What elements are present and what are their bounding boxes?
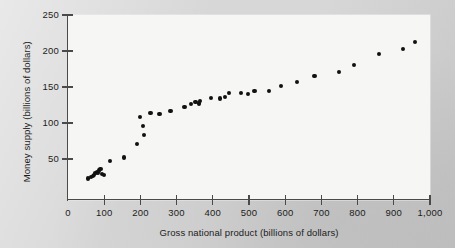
y-tick-200 xyxy=(62,50,73,51)
y-tick-label-100: 100 xyxy=(43,118,59,128)
data-point xyxy=(312,74,316,78)
x-tick-300 xyxy=(176,195,177,205)
x-tick-100 xyxy=(104,195,105,205)
data-point xyxy=(141,124,145,128)
data-point xyxy=(413,40,417,44)
data-point xyxy=(182,105,186,109)
x-tick-label-800: 800 xyxy=(349,208,365,218)
y-tick-150 xyxy=(62,86,73,87)
x-tick-label-900: 900 xyxy=(386,208,402,218)
data-point xyxy=(148,111,152,115)
x-tick-1000 xyxy=(429,195,430,205)
x-tick-label-0: 0 xyxy=(65,208,70,218)
data-point xyxy=(122,155,126,159)
data-point xyxy=(227,91,231,95)
y-tick-label-250: 250 xyxy=(43,10,59,20)
y-axis-label: Money supply (billions of dollars) xyxy=(22,17,32,207)
x-tick-label-700: 700 xyxy=(313,208,329,218)
data-point xyxy=(135,142,139,146)
y-tick-label-200: 200 xyxy=(43,46,59,56)
x-tick-label-1000: 1,000 xyxy=(418,208,443,218)
x-tick-900 xyxy=(393,195,394,205)
x-tick-label-100: 100 xyxy=(96,208,112,218)
y-tick-50 xyxy=(62,158,73,159)
scatter-chart-figure: 50100150200250 0100200300400500600700800… xyxy=(0,0,455,248)
x-tick-600 xyxy=(285,195,286,205)
y-tick-label-150: 150 xyxy=(43,82,59,92)
data-point xyxy=(252,89,256,93)
x-tick-400 xyxy=(212,195,213,205)
data-point xyxy=(209,96,213,100)
x-tick-label-500: 500 xyxy=(241,208,257,218)
x-tick-800 xyxy=(357,195,358,205)
y-tick-250 xyxy=(62,14,73,15)
y-axis-line xyxy=(67,14,68,201)
x-axis-label: Gross national product (billions of doll… xyxy=(68,228,430,238)
y-tick-label-50: 50 xyxy=(48,154,59,164)
x-tick-label-300: 300 xyxy=(168,208,184,218)
x-tick-500 xyxy=(248,195,249,205)
data-point xyxy=(168,109,172,113)
plot-area xyxy=(68,15,430,200)
data-point xyxy=(337,70,341,74)
x-tick-label-600: 600 xyxy=(277,208,293,218)
data-point xyxy=(223,95,227,99)
data-point xyxy=(98,167,102,171)
y-tick-100 xyxy=(62,122,73,123)
data-point xyxy=(239,91,243,95)
x-tick-label-200: 200 xyxy=(132,208,148,218)
x-tick-700 xyxy=(321,195,322,205)
x-tick-200 xyxy=(140,195,141,205)
x-tick-label-400: 400 xyxy=(205,208,221,218)
